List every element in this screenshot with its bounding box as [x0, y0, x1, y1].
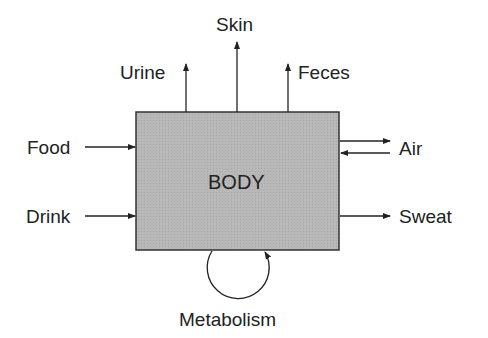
- urine-label: Urine: [120, 63, 165, 82]
- body-label: BODY: [208, 172, 265, 192]
- metabolism-label: Metabolism: [179, 310, 276, 329]
- body-water-balance-diagram: [0, 0, 488, 338]
- skin-label: Skin: [216, 15, 253, 34]
- sweat-label: Sweat: [399, 207, 452, 226]
- food-label: Food: [27, 138, 70, 157]
- feces-label: Feces: [298, 63, 350, 82]
- metabolism-loop-arrow: [207, 251, 269, 299]
- drink-label: Drink: [26, 207, 70, 226]
- air-label: Air: [399, 139, 422, 158]
